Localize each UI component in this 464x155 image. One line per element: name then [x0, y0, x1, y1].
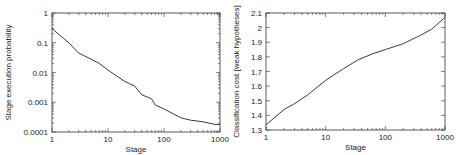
y-tick-label: 2.1 — [251, 9, 263, 18]
y-tick-label: 0.001 — [28, 98, 49, 107]
y-tick-label: 1.6 — [251, 82, 263, 91]
x-tick-label: 10 — [321, 133, 330, 142]
data-line — [52, 29, 220, 125]
y-tick-label: 0.0001 — [24, 128, 49, 137]
y-axis-label: Stage execution probability — [4, 24, 13, 120]
y-tick-label: 1.7 — [251, 68, 263, 77]
x-tick-label: 1000 — [436, 133, 454, 142]
y-tick-label: 2 — [258, 24, 263, 33]
classification-cost-plot: 11010010001.31.41.51.61.71.81.922.1Stage… — [232, 5, 454, 152]
plot-frame — [266, 13, 445, 130]
y-tick-label: 0.01 — [32, 69, 48, 78]
x-tick-label: 1 — [264, 133, 269, 142]
x-tick-label: 10 — [104, 135, 113, 144]
x-axis-label: Stage — [345, 143, 366, 152]
plot-frame — [52, 13, 220, 132]
y-tick-label: 0.1 — [37, 39, 49, 48]
x-tick-label: 100 — [379, 133, 393, 142]
data-line — [266, 17, 445, 125]
stage-execution-probability-plot: 11010010000.00010.0010.010.11StageStage … — [4, 9, 229, 154]
x-tick-label: 1000 — [211, 135, 229, 144]
y-axis-label: Classification cost [weak hypotheses] — [232, 5, 241, 138]
x-tick-label: 1 — [50, 135, 55, 144]
y-tick-label: 1.3 — [251, 126, 263, 135]
y-tick-label: 1.4 — [251, 111, 263, 120]
x-tick-label: 100 — [157, 135, 171, 144]
figure: 11010010000.00010.0010.010.11StageStage … — [0, 0, 464, 155]
y-tick-label: 1.5 — [251, 97, 263, 106]
y-tick-label: 1.9 — [251, 38, 263, 47]
y-tick-label: 1 — [44, 9, 49, 18]
y-tick-label: 1.8 — [251, 53, 263, 62]
x-axis-label: Stage — [126, 145, 147, 154]
